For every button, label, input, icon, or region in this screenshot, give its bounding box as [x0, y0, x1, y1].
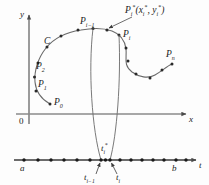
t-tick — [151, 158, 154, 161]
t-tick-ti — [108, 158, 111, 161]
point-label-Pn: Pn — [166, 50, 175, 61]
curve-dot-Pn — [171, 63, 174, 66]
curve-dot — [77, 29, 80, 32]
t-tick — [62, 158, 65, 161]
t-tick-a — [22, 158, 25, 161]
t-axis-pointers — [96, 163, 117, 174]
t-tick — [49, 158, 52, 161]
t-tick — [129, 158, 132, 161]
t-axis-label: t — [199, 161, 202, 170]
curve-name-label: C — [44, 37, 50, 47]
origin-label: 0 — [19, 117, 24, 126]
curve-dot — [60, 35, 63, 38]
t-tick — [75, 158, 78, 161]
leader-lines — [109, 17, 132, 28]
t-sample-label-ti-star: ti* — [101, 143, 108, 155]
curve-dot — [49, 103, 52, 106]
t-tick-label-ti: ti — [116, 173, 120, 184]
t-tick — [118, 158, 121, 161]
parametric-curve-figure: y x t 0 C P0 P1 P2 Pi−1 Pi Pn Pi*(xi*, y… — [0, 0, 209, 185]
leader-Pi-star — [109, 17, 132, 28]
t-tick — [36, 158, 39, 161]
x-axis-label: x — [189, 115, 193, 124]
point-label-P1: P1 — [38, 80, 47, 91]
t-tick — [184, 158, 187, 161]
curve-dot — [161, 69, 164, 72]
pointer-ti-minus-1 — [96, 163, 100, 174]
t-tick-ti-star — [104, 158, 107, 161]
point-label-Pi: Pi — [123, 30, 130, 41]
projection-line-right — [110, 35, 120, 160]
projection-lines — [91, 29, 120, 161]
curve-C — [35, 29, 172, 104]
point-label-Pi-minus-1: Pi−1 — [80, 17, 94, 28]
t-tick-b — [174, 158, 177, 161]
figure-canvas — [0, 0, 209, 185]
t-tick — [162, 158, 165, 161]
t-tick-label-ti-minus-1: ti−1 — [84, 173, 95, 184]
t-axis-end-label-b: b — [172, 164, 177, 173]
t-tick-ti-minus-1 — [99, 158, 102, 161]
sample-point-label-Pi-star: Pi*(xi*, yi*) — [125, 4, 164, 17]
t-tick — [140, 158, 143, 161]
curve-C-path — [35, 29, 172, 104]
curve-dot — [125, 47, 128, 50]
point-label-P0: P0 — [54, 98, 63, 109]
point-label-P2: P2 — [36, 62, 45, 73]
curve-dot — [127, 60, 130, 63]
curve-dot — [149, 77, 152, 80]
curve-dot — [33, 76, 36, 79]
y-axis-label: y — [20, 10, 24, 19]
curve-sample-dots — [33, 27, 174, 106]
t-axis-start-label-a: a — [20, 164, 25, 173]
t-tick — [88, 158, 91, 161]
t-axis — [14, 158, 196, 174]
curve-dot-Pi-star — [105, 28, 108, 31]
curve-dot — [135, 73, 138, 76]
projection-line-left — [91, 29, 101, 161]
